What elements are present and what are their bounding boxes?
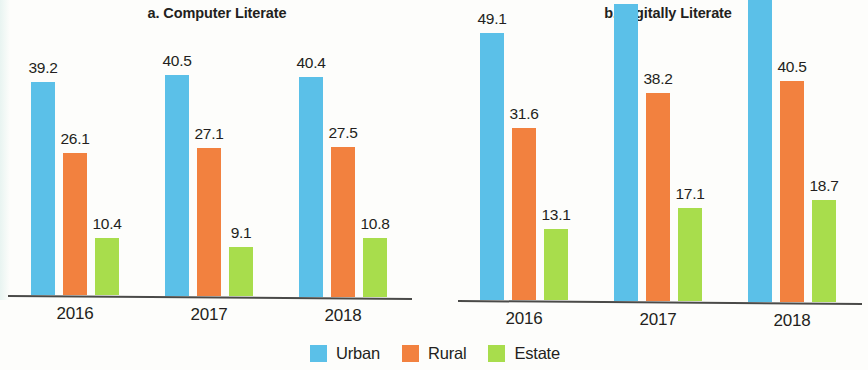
x-axis-tick-2018: 2018 xyxy=(752,311,832,331)
bar-estate-2016 xyxy=(95,238,119,295)
bar-value-label: 38.2 xyxy=(632,70,684,88)
legend-swatch-urban-icon xyxy=(310,345,327,362)
legend-label-urban: Urban xyxy=(336,344,380,363)
bar-value-label: 40.4 xyxy=(285,54,337,72)
x-axis-tick-2016: 2016 xyxy=(35,304,115,324)
bar-urban-2018 xyxy=(299,77,323,297)
bar-urban-2016 xyxy=(480,33,504,301)
bar-value-label: 39.2 xyxy=(17,59,69,77)
x-axis-tick-2017: 2017 xyxy=(618,310,698,330)
bar-value-label: 13.1 xyxy=(530,206,582,224)
bar-urban-2016 xyxy=(31,82,55,296)
legend-label-estate: Estate xyxy=(514,344,560,363)
plot-area-b: 49.131.613.1201654.638.217.1201756.640.5… xyxy=(434,0,868,340)
bar-estate-2016 xyxy=(544,229,568,300)
x-axis-tick-2018: 2018 xyxy=(303,306,383,326)
bar-value-label: 9.1 xyxy=(215,224,267,242)
bar-rural-2017 xyxy=(197,148,221,296)
bar-urban-2017 xyxy=(165,75,189,296)
bar-urban-2018 xyxy=(748,0,772,302)
bar-value-label: 27.5 xyxy=(317,124,369,142)
x-axis-tick-2016: 2016 xyxy=(484,309,564,329)
plot-area-a: 39.226.110.4201640.527.19.1201740.427.51… xyxy=(0,0,434,340)
bar-estate-2017 xyxy=(229,247,253,297)
legend-item-urban: Urban xyxy=(310,344,380,363)
bar-urban-2017 xyxy=(614,4,638,302)
bar-value-label: 49.1 xyxy=(466,10,518,28)
chart-panel-computer-literate: a. Computer Literate 39.226.110.4201640.… xyxy=(0,0,434,370)
bar-value-label: 17.1 xyxy=(664,185,716,203)
legend-item-rural: Rural xyxy=(402,344,466,363)
legend-label-rural: Rural xyxy=(428,344,466,363)
bar-value-label: 10.8 xyxy=(349,215,401,233)
bar-estate-2018 xyxy=(363,238,387,297)
legend-swatch-estate-icon xyxy=(488,345,505,362)
bar-value-label: 18.7 xyxy=(798,177,850,195)
chart-legend: UrbanRuralEstate xyxy=(310,344,582,363)
legend-item-estate: Estate xyxy=(488,344,560,363)
bar-value-label: 26.1 xyxy=(49,130,101,148)
bar-value-label: 40.5 xyxy=(151,52,203,70)
legend-swatch-rural-icon xyxy=(402,345,419,362)
bar-value-label: 27.1 xyxy=(183,125,235,143)
bar-estate-2018 xyxy=(812,200,836,302)
bar-value-label: 10.4 xyxy=(81,215,133,233)
bar-value-label: 40.5 xyxy=(766,58,818,76)
bar-value-label: 31.6 xyxy=(498,105,550,123)
x-axis-tick-2017: 2017 xyxy=(169,305,249,325)
bar-estate-2017 xyxy=(678,208,702,301)
chart-panel-digitally-literate: b. Digitally Literate 49.131.613.1201654… xyxy=(434,0,868,370)
